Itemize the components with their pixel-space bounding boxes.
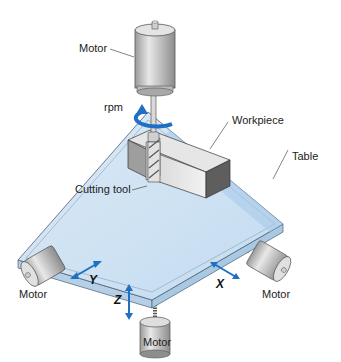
y-axis-label: Y bbox=[89, 273, 97, 287]
cnc-diagram bbox=[0, 0, 341, 362]
left-motor-label: Motor bbox=[19, 288, 47, 300]
x-axis-label: X bbox=[216, 277, 224, 291]
cutting-tool bbox=[148, 90, 160, 182]
right-motor-label: Motor bbox=[262, 288, 290, 300]
z-axis-label: Z bbox=[114, 293, 121, 307]
workpiece-label: Workpiece bbox=[232, 114, 284, 126]
top-motor bbox=[135, 21, 175, 96]
cutting-tool-label: Cutting tool bbox=[75, 183, 131, 195]
rpm-label: rpm bbox=[104, 101, 123, 113]
table-label: Table bbox=[292, 150, 318, 162]
bottom-motor-label: Motor bbox=[143, 336, 171, 348]
top-motor-label: Motor bbox=[79, 42, 107, 54]
